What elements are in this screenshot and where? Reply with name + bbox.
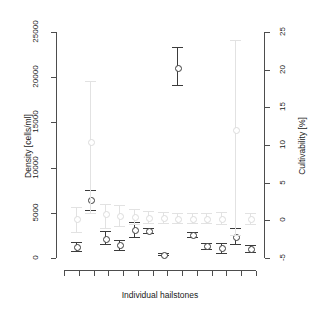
error-cap-bottom xyxy=(143,223,154,224)
error-cap-bottom xyxy=(216,224,227,225)
cultivability-point xyxy=(185,212,199,225)
density-point xyxy=(243,244,257,253)
data-marker xyxy=(175,65,182,72)
error-cap-top xyxy=(245,213,256,214)
density-point xyxy=(98,230,112,246)
x-axis-tick xyxy=(241,271,242,276)
error-cap-bottom xyxy=(100,244,111,245)
right-axis-tick xyxy=(265,145,270,146)
right-axis-tick-label: 10 xyxy=(278,135,287,155)
error-cap-top xyxy=(85,81,96,82)
data-marker xyxy=(146,215,153,222)
error-cap-bottom xyxy=(129,224,140,225)
error-cap-top xyxy=(201,213,212,214)
data-marker xyxy=(132,227,139,234)
left-axis-tick-label: 20000 xyxy=(31,63,40,91)
right-axis-tick-label: 25 xyxy=(278,22,287,42)
data-marker xyxy=(103,236,110,243)
x-axis-tick xyxy=(167,271,168,276)
density-point xyxy=(142,227,156,234)
x-axis-tick xyxy=(153,271,154,276)
cultivability-point xyxy=(156,211,170,224)
right-axis-tick-label: 20 xyxy=(278,59,287,79)
data-marker xyxy=(161,215,168,222)
error-cap-top xyxy=(172,213,183,214)
data-marker xyxy=(248,246,255,253)
y-axis-title-left: Density [cells/ml] xyxy=(23,96,33,196)
error-cap-top xyxy=(100,204,111,205)
density-point xyxy=(200,242,214,250)
data-marker xyxy=(219,216,226,223)
left-axis-tick xyxy=(51,32,56,33)
data-marker xyxy=(190,216,197,223)
error-cap-top xyxy=(230,40,241,41)
data-marker xyxy=(132,214,139,221)
error-cap-top xyxy=(158,212,169,213)
cultivability-point xyxy=(98,203,112,229)
error-cap-bottom xyxy=(100,228,111,229)
right-axis-tick-label: 15 xyxy=(278,97,287,117)
left-axis-tick-label: 0 xyxy=(31,244,40,272)
error-cap-bottom xyxy=(216,253,227,254)
error-cap-bottom xyxy=(114,226,125,227)
left-axis-tick-label: 5000 xyxy=(31,198,40,226)
data-marker xyxy=(204,216,211,223)
error-cap-bottom xyxy=(245,224,256,225)
cultivability-point xyxy=(127,208,141,225)
error-cap-top xyxy=(71,242,82,243)
error-cap-top xyxy=(143,211,154,212)
error-bar xyxy=(235,40,236,236)
error-cap-bottom xyxy=(85,213,96,214)
x-axis-tick xyxy=(197,271,198,276)
cultivability-point xyxy=(214,211,228,225)
error-cap-bottom xyxy=(129,237,140,238)
error-cap-bottom xyxy=(114,250,125,251)
x-axis-tick xyxy=(212,271,213,276)
right-axis-tick-label: 0 xyxy=(278,210,287,230)
data-marker xyxy=(117,213,124,220)
data-marker xyxy=(74,244,81,251)
error-cap-bottom xyxy=(230,244,241,245)
error-cap-bottom xyxy=(230,235,241,236)
error-cap-bottom xyxy=(172,223,183,224)
data-marker xyxy=(233,127,240,134)
right-axis-tick-label: -5 xyxy=(278,248,287,268)
data-marker xyxy=(175,216,182,223)
cultivability-point xyxy=(84,80,98,214)
x-axis-tick xyxy=(256,271,257,276)
cultivability-point xyxy=(171,212,185,224)
data-marker xyxy=(74,216,81,223)
density-point xyxy=(113,239,127,251)
error-cap-bottom xyxy=(172,85,183,86)
data-marker xyxy=(103,211,110,218)
cultivability-point xyxy=(243,212,257,225)
error-cap-top xyxy=(187,213,198,214)
data-marker xyxy=(190,232,197,239)
left-axis-tick-label: 25000 xyxy=(31,18,40,46)
x-axis-title: Individual hailstones xyxy=(60,290,260,300)
y-axis-title-right: Cultivability [%] xyxy=(297,96,307,196)
error-cap-bottom xyxy=(71,232,82,233)
density-point xyxy=(171,46,185,86)
right-axis-tick xyxy=(265,32,270,33)
error-cap-top xyxy=(100,231,111,232)
left-axis-tick xyxy=(51,77,56,78)
data-marker xyxy=(88,139,95,146)
x-axis-tick xyxy=(94,271,95,276)
error-cap-bottom xyxy=(201,223,212,224)
data-marker xyxy=(146,228,153,235)
x-axis-tick xyxy=(79,271,80,276)
error-cap-top xyxy=(114,205,125,206)
x-axis-tick xyxy=(138,271,139,276)
left-axis-tick xyxy=(51,213,56,214)
chart-figure: 0500010000150002000025000 -50510152025 D… xyxy=(0,0,320,314)
density-point xyxy=(156,252,170,256)
cultivability-point xyxy=(113,204,127,227)
error-bar xyxy=(90,81,91,213)
error-cap-top xyxy=(114,240,125,241)
x-axis-tick xyxy=(108,271,109,276)
error-cap-top xyxy=(172,47,183,48)
right-axis-tick xyxy=(265,183,270,184)
data-marker xyxy=(248,216,255,223)
left-axis-tick xyxy=(51,168,56,169)
